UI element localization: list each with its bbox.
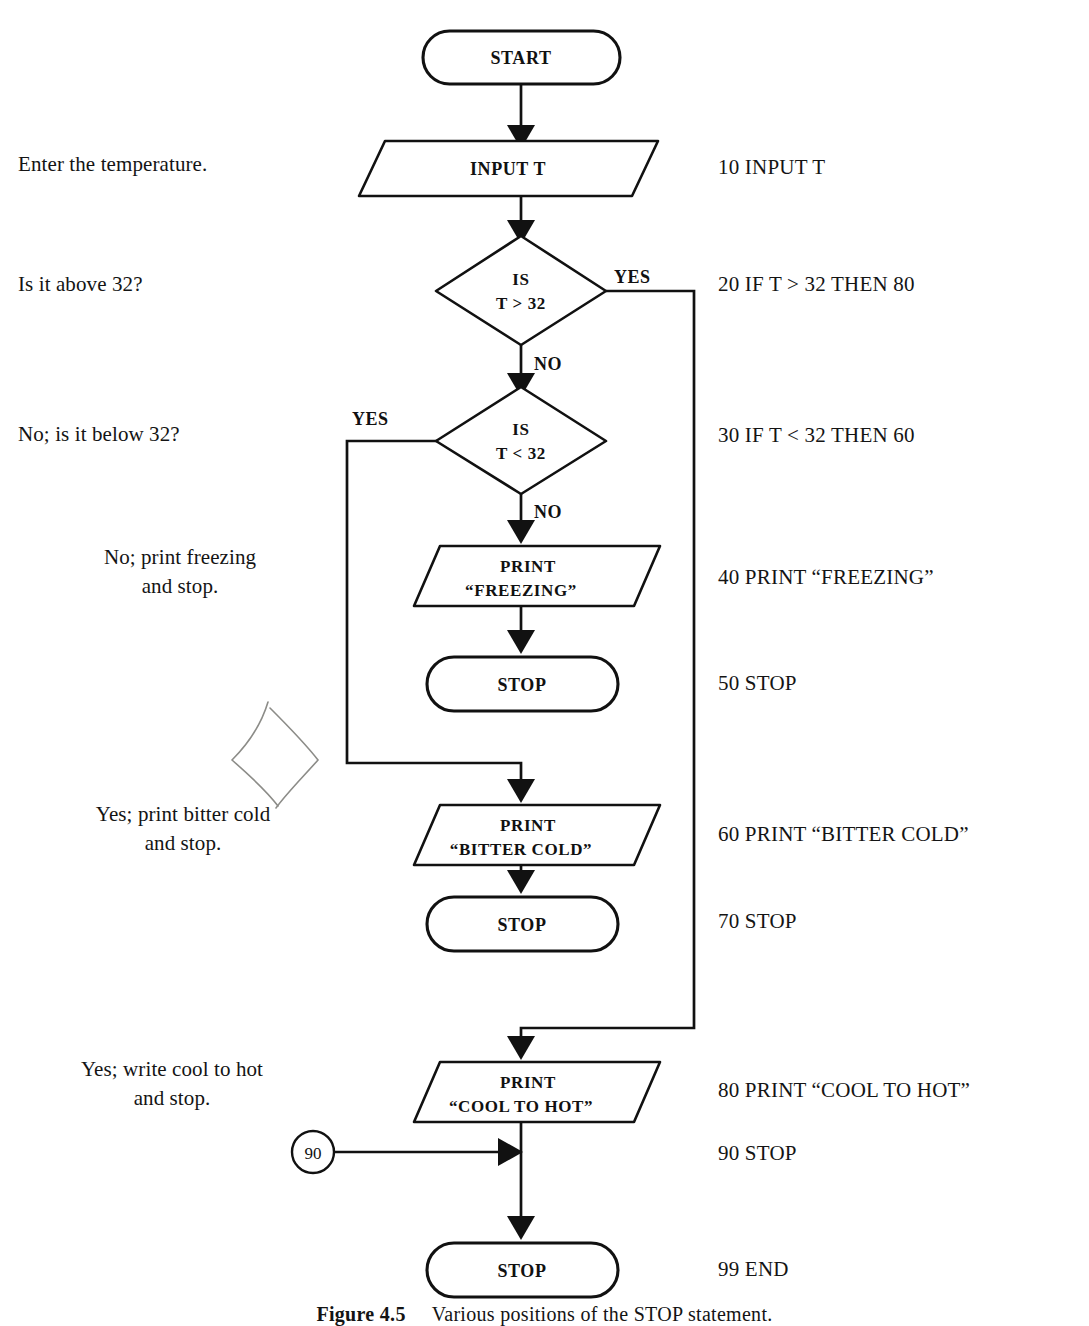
flowchart-canvas: START INPUT T IS T > 32 YES NO IS T < 32… (0, 0, 1089, 1326)
node-decision-lt: IS T < 32 (436, 387, 606, 494)
node-decision-gt-line1: IS (512, 270, 529, 289)
node-stop-99-label: STOP (497, 1261, 546, 1281)
sketch-artifact-diamond (232, 702, 318, 808)
node-input-t: INPUT T (359, 141, 658, 196)
arrowhead-stop99 (507, 1216, 535, 1240)
figure-sheet: START INPUT T IS T > 32 YES NO IS T < 32… (0, 0, 1089, 1326)
node-connector-90-label: 90 (305, 1144, 322, 1163)
code-line-10: 10 INPUT T (718, 155, 825, 180)
code-line-80: 80 PRINT “COOL TO HOT” (718, 1078, 970, 1103)
arrowhead-cool (507, 1036, 535, 1060)
code-line-70: 70 STOP (718, 909, 797, 934)
branch-label-lt-yes: YES (352, 409, 389, 429)
node-stop-70-label: STOP (497, 915, 546, 935)
node-decision-gt-line2: T > 32 (496, 294, 546, 313)
arrowhead-freezing (507, 520, 535, 544)
node-print-bitter-line2: “BITTER COLD” (450, 840, 592, 859)
node-start-label: START (490, 48, 551, 68)
annotation-enter-temperature: Enter the temperature. (18, 150, 207, 179)
node-start: START (423, 31, 620, 84)
node-stop-50: STOP (427, 657, 618, 711)
line-decision2-yes-rail (347, 441, 521, 795)
node-print-freezing-line1: PRINT (500, 557, 556, 576)
figure-caption-label: Figure 4.5 (316, 1303, 405, 1325)
arrowhead-stop50 (507, 630, 535, 654)
node-print-freezing: PRINT “FREEZING” (414, 546, 660, 606)
code-line-99: 99 END (718, 1257, 789, 1282)
arrowhead-connector90 (498, 1138, 523, 1166)
node-stop-50-label: STOP (497, 675, 546, 695)
code-line-20: 20 IF T > 32 THEN 80 (718, 272, 915, 297)
node-print-bitter-line1: PRINT (500, 816, 556, 835)
node-print-cool-line1: PRINT (500, 1073, 556, 1092)
code-line-60: 60 PRINT “BITTER COLD” (718, 822, 969, 847)
node-print-cool: PRINT “COOL TO HOT” (414, 1062, 660, 1122)
node-connector-90: 90 (292, 1131, 334, 1173)
figure-caption: Figure 4.5Various positions of the STOP … (0, 1303, 1089, 1326)
figure-caption-text: Various positions of the STOP statement. (432, 1303, 773, 1325)
branch-label-lt-no: NO (534, 502, 562, 522)
annotation-print-bitter-cold: Yes; print bitter cold and stop. (38, 800, 328, 857)
code-line-50: 50 STOP (718, 671, 797, 696)
annotation-write-cool-to-hot: Yes; write cool to hot and stop. (22, 1055, 322, 1112)
code-line-30: 30 IF T < 32 THEN 60 (718, 423, 915, 448)
annotation-print-freezing: No; print freezing and stop. (55, 543, 305, 600)
code-line-90: 90 STOP (718, 1141, 797, 1166)
node-print-freezing-line2: “FREEZING” (465, 581, 577, 600)
code-line-40: 40 PRINT “FREEZING” (718, 565, 934, 590)
annotation-is-below-32: No; is it below 32? (18, 420, 180, 449)
arrowhead-bitter (507, 779, 535, 803)
node-print-cool-line2: “COOL TO HOT” (449, 1097, 593, 1116)
annotation-is-above-32: Is it above 32? (18, 270, 143, 299)
node-decision-gt: IS T > 32 (436, 236, 606, 345)
node-decision-lt-line2: T < 32 (496, 444, 546, 463)
branch-label-gt-no: NO (534, 354, 562, 374)
node-stop-70: STOP (427, 897, 618, 951)
branch-label-gt-yes: YES (614, 267, 651, 287)
node-stop-99: STOP (427, 1243, 618, 1297)
node-print-bitter: PRINT “BITTER COLD” (414, 805, 660, 865)
node-input-t-label: INPUT T (470, 159, 546, 179)
node-decision-lt-line1: IS (512, 420, 529, 439)
arrowhead-stop70 (507, 870, 535, 894)
